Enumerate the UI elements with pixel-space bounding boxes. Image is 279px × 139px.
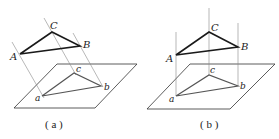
label-B: B [82, 39, 90, 50]
label-C: C [50, 20, 58, 31]
label-a: a [35, 93, 40, 103]
label-b: b [240, 81, 246, 91]
label-B: B [240, 41, 248, 52]
figure-a: C B A c b a ( a ) [9, 18, 137, 131]
triangle-ABC [20, 32, 80, 54]
triangle-abc [42, 73, 101, 96]
triangle-abc [176, 75, 238, 96]
label-C: C [211, 22, 219, 33]
label-b: b [104, 82, 110, 92]
label-c: c [210, 65, 215, 75]
projection-diagram: C B A c b a ( a ) C B A c b a ( b ) [0, 0, 279, 139]
triangle-ABC [176, 32, 238, 55]
figure-b: C B A c b a ( b ) [147, 8, 275, 131]
label-c: c [76, 64, 81, 74]
caption-a: ( a ) [45, 118, 63, 131]
label-A: A [9, 51, 17, 62]
label-a: a [169, 94, 174, 104]
label-A: A [165, 53, 173, 64]
caption-b: ( b ) [200, 118, 219, 131]
